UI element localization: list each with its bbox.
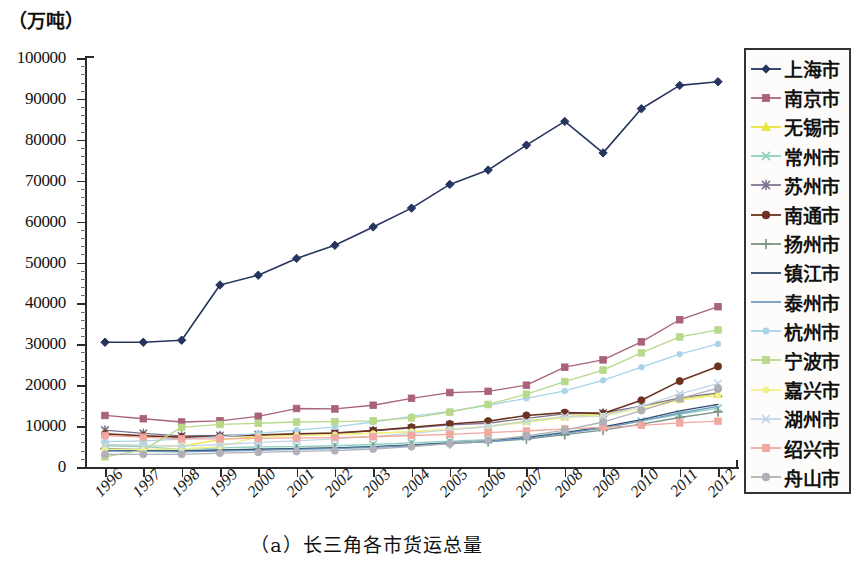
- legend-label: 绍兴市: [784, 435, 840, 462]
- dot-marker-icon: [749, 323, 783, 339]
- legend-item-南京市[interactable]: 南京市: [746, 83, 849, 112]
- series-上海市: [101, 78, 722, 347]
- x-marker-icon: [749, 411, 783, 427]
- x-tick-label: 2010: [627, 465, 663, 501]
- legend-label: 上海市: [784, 55, 840, 82]
- triangle-marker-icon: [749, 119, 783, 135]
- x-tick-label: 1999: [206, 465, 242, 501]
- legend-label: 泰州市: [784, 289, 840, 316]
- x-tick-label: 2007: [512, 465, 548, 501]
- legend-label: 舟山市: [784, 464, 840, 491]
- x-tick-label: 2004: [397, 465, 433, 501]
- x-tick-label: 1996: [91, 465, 127, 501]
- legend-item-湖州市[interactable]: 湖州市: [746, 404, 849, 433]
- legend: 上海市南京市无锡市常州市苏州市南通市扬州市镇江市泰州市杭州市宁波市嘉兴市湖州市绍…: [744, 48, 851, 494]
- y-tick-label: 60000: [25, 211, 66, 231]
- line-marker-icon: [749, 294, 783, 310]
- legend-item-苏州市[interactable]: 苏州市: [746, 171, 849, 200]
- legend-item-绍兴市[interactable]: 绍兴市: [746, 433, 849, 462]
- legend-label: 南京市: [784, 84, 840, 111]
- y-tick-label: 10000: [25, 416, 66, 436]
- asterisk-marker-icon: [749, 177, 783, 193]
- diamond-marker-icon: [749, 61, 783, 77]
- square-marker-icon: [749, 352, 783, 368]
- legend-label: 苏州市: [784, 172, 840, 199]
- legend-item-扬州市[interactable]: 扬州市: [746, 229, 849, 258]
- legend-label: 无锡市: [784, 113, 840, 140]
- legend-label: 杭州市: [784, 318, 840, 345]
- figure-caption: （a）长三角各市货运总量: [0, 530, 853, 557]
- x-tick-label: 1998: [167, 465, 203, 501]
- square-marker-icon: [749, 440, 783, 456]
- plus-marker-icon: [749, 236, 783, 252]
- y-tick-label: 50000: [25, 252, 66, 272]
- legend-item-镇江市[interactable]: 镇江市: [746, 258, 849, 287]
- y-tick-label: 100000: [17, 48, 66, 68]
- plot-area: 0100002000030000400005000060000700008000…: [85, 58, 738, 467]
- line-marker-icon: [749, 265, 783, 281]
- series-宁波市: [102, 327, 722, 460]
- y-tick-label: 40000: [25, 293, 66, 313]
- legend-item-宁波市[interactable]: 宁波市: [746, 346, 849, 375]
- legend-item-泰州市[interactable]: 泰州市: [746, 288, 849, 317]
- x-marker-icon: [749, 148, 783, 164]
- legend-label: 湖州市: [784, 405, 840, 432]
- x-tick-label: 2009: [589, 465, 625, 501]
- circle-marker-icon: [749, 469, 783, 485]
- x-tick-label: 1997: [129, 465, 165, 501]
- y-tick-label: 90000: [25, 88, 66, 108]
- circle-marker-icon: [749, 207, 783, 223]
- legend-item-常州市[interactable]: 常州市: [746, 142, 849, 171]
- series-lines: [85, 58, 738, 467]
- legend-item-舟山市[interactable]: 舟山市: [746, 463, 849, 492]
- square-marker-icon: [749, 90, 783, 106]
- legend-label: 镇江市: [784, 259, 840, 286]
- legend-item-杭州市[interactable]: 杭州市: [746, 317, 849, 346]
- figure-root: （万吨） 01000020000300004000050000600007000…: [0, 0, 853, 563]
- legend-item-南通市[interactable]: 南通市: [746, 200, 849, 229]
- x-tick-label: 2006: [474, 465, 510, 501]
- dot-marker-icon: [749, 382, 783, 398]
- y-tick-label: 30000: [25, 334, 66, 354]
- legend-item-上海市[interactable]: 上海市: [746, 54, 849, 83]
- y-tick-label: 0: [58, 457, 66, 477]
- x-tick-label: 2000: [244, 465, 280, 501]
- legend-label: 宁波市: [784, 347, 840, 374]
- legend-label: 嘉兴市: [784, 376, 840, 403]
- y-axis-unit-label: （万吨）: [8, 6, 84, 33]
- legend-label: 扬州市: [784, 230, 840, 257]
- x-tick-label: 2011: [666, 465, 701, 500]
- legend-label: 南通市: [784, 201, 840, 228]
- x-tick-label: 2012: [704, 465, 740, 501]
- x-tick-label: 2002: [321, 465, 357, 501]
- legend-label: 常州市: [784, 143, 840, 170]
- legend-item-嘉兴市[interactable]: 嘉兴市: [746, 375, 849, 404]
- y-tick: 0: [77, 467, 86, 469]
- x-tick-label: 2008: [551, 465, 587, 501]
- x-tick-label: 2005: [436, 465, 472, 501]
- y-tick-label: 80000: [25, 129, 66, 149]
- x-tick-label: 2003: [359, 465, 395, 501]
- x-tick-label: 2001: [282, 465, 318, 501]
- legend-item-无锡市[interactable]: 无锡市: [746, 112, 849, 141]
- y-tick-label: 20000: [25, 375, 66, 395]
- y-tick-label: 70000: [25, 170, 66, 190]
